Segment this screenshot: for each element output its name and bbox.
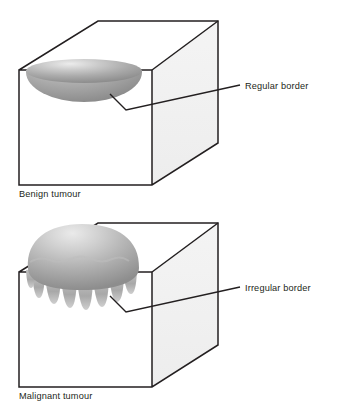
caption-malignant: Malignant tumour xyxy=(19,391,92,401)
tumour-top-rim xyxy=(26,59,142,83)
callout-label-malignant: Irregular border xyxy=(245,283,311,293)
benign-diagram-svg: Regular border Benign tumour xyxy=(0,0,341,202)
malignant-diagram-svg: Irregular border Malignant tumour xyxy=(0,202,341,404)
panel-malignant-tumour: Irregular border Malignant tumour xyxy=(0,202,341,404)
callout-label-benign: Regular border xyxy=(245,81,308,91)
caption-benign: Benign tumour xyxy=(19,189,81,199)
tumour-border-figure: Regular border Benign tumour xyxy=(0,0,341,404)
panel-benign-tumour: Regular border Benign tumour xyxy=(0,0,341,202)
